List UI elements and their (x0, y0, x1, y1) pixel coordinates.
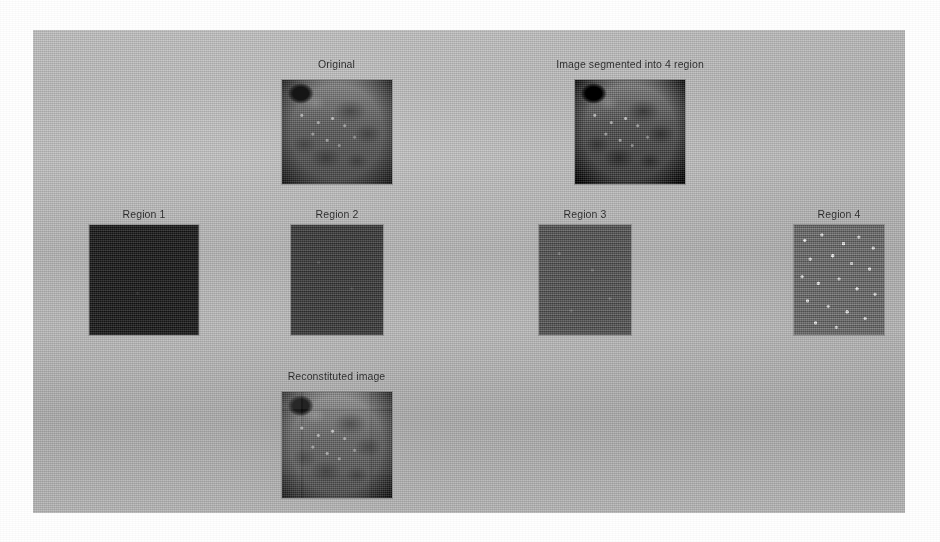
panel-region-3-image (539, 225, 631, 335)
panel-region-3: Region 3 (524, 208, 646, 378)
panel-region-2: Region 2 (276, 208, 398, 378)
region-3-grain (539, 225, 631, 335)
panel-original: Original (264, 58, 409, 218)
panel-reconstituted-label: Reconstituted image (288, 370, 386, 382)
figure-canvas: Original Image segmented into 4 region R… (33, 30, 905, 513)
scanned-page: Original Image segmented into 4 region R… (0, 0, 940, 542)
panel-segmented: Image segmented into 4 region (514, 58, 746, 218)
panel-original-image (282, 80, 392, 184)
panel-region-1-label: Region 1 (123, 208, 166, 220)
panel-reconstituted-image (282, 392, 392, 498)
panel-region-1: Region 1 (12, 208, 276, 378)
region-2-grain (291, 225, 383, 335)
panel-region-4-image (794, 225, 884, 335)
panel-region-4-label: Region 4 (818, 208, 861, 220)
region-4-grain (794, 225, 884, 335)
panel-region-3-label: Region 3 (564, 208, 607, 220)
panel-reconstituted: Reconstituted image (264, 370, 409, 532)
panel-region-1-image (90, 225, 199, 335)
panel-region-4: Region 4 (778, 208, 900, 378)
panel-original-label: Original (318, 58, 355, 70)
region-1-grain (90, 225, 199, 335)
panel-segmented-label: Image segmented into 4 region (556, 58, 704, 70)
panel-segmented-image (575, 80, 685, 184)
panel-region-2-label: Region 2 (316, 208, 359, 220)
panel-region-2-image (291, 225, 383, 335)
